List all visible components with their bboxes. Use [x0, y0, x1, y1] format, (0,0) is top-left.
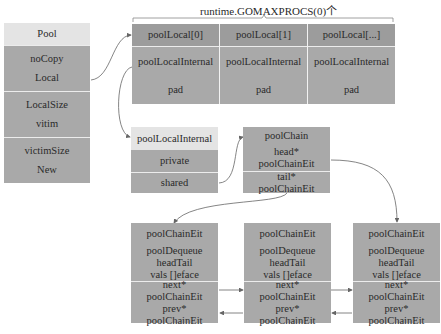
- field-shared-label: shared: [161, 177, 188, 189]
- poolchain-header: poolChain: [243, 127, 330, 145]
- prev-label: prev*: [385, 303, 409, 315]
- prev-label: prev*: [276, 303, 300, 315]
- next-type-label: poolChainEit: [369, 291, 425, 303]
- poolchaineit-header-label: poolChainEit: [147, 228, 203, 240]
- poollocal-pad-label: pad: [168, 84, 183, 96]
- arrow-head-to-last: [331, 160, 397, 222]
- poollocalinternal-header: poolLocalInternal: [131, 127, 218, 150]
- next-label: next*: [385, 279, 408, 291]
- gomaxprocs-label: runtime.GOMAXPROCS(0)个: [200, 2, 337, 18]
- poolchaineit-3: poolChainEit poolDequeue headTail vals […: [353, 223, 440, 323]
- pooldequeue-block: poolDequeue headTail vals []eface: [244, 245, 331, 281]
- poolchaineit-header: poolChainEit: [131, 223, 218, 245]
- poolchaineit-header-label: poolChainEit: [260, 228, 316, 240]
- poollocal-header: poolLocal[1]: [220, 24, 307, 46]
- arrow-tail-to-first: [174, 193, 287, 223]
- poolchain-struct: poolChain head* poolChainEit tail* poolC…: [243, 127, 330, 193]
- poolchain-tail: tail* poolChainEit: [243, 171, 330, 193]
- pooldequeue-label: poolDequeue: [147, 245, 203, 257]
- poollocal-pad-label: pad: [256, 84, 271, 96]
- link-block: next* poolChainEit prev* poolChainEit: [131, 281, 218, 323]
- head-type-label: poolChainEit: [259, 158, 315, 170]
- headtail-label: headTail: [157, 257, 193, 269]
- link-block: next* poolChainEit prev* poolChainEit: [244, 281, 331, 323]
- pool-field-group-2: LocalSize vitim: [4, 91, 90, 137]
- poollocal-header: poolLocal[0]: [132, 24, 219, 46]
- poollocalinternal-struct: poolLocalInternal private shared: [131, 127, 218, 193]
- prev-type-label: poolChainEit: [260, 315, 316, 327]
- poolchaineit-2: poolChainEit poolDequeue headTail vals […: [244, 223, 331, 323]
- pool-field-group-3: victimSize New: [4, 137, 90, 183]
- poollocal-header-label: poolLocal[...]: [323, 29, 380, 41]
- pooldequeue-block: poolDequeue headTail vals []eface: [131, 245, 218, 281]
- poollocal-pad: pad: [308, 76, 395, 104]
- pool-header: Pool: [4, 23, 90, 45]
- poollocal-internal: poolLocalInternal: [220, 46, 307, 76]
- poollocal-col-1: poolLocal[1] poolLocalInternal pad: [220, 24, 307, 104]
- poollocal-array: poolLocal[0] poolLocalInternal pad poolL…: [132, 24, 395, 104]
- arrow-local-to-poollocal: [91, 35, 131, 80]
- poollocal-internal: poolLocalInternal: [132, 46, 219, 76]
- poollocal-pad: pad: [220, 76, 307, 104]
- field-private-label: private: [160, 155, 189, 167]
- next-label: next*: [163, 279, 186, 291]
- poollocal-header-label: poolLocal[0]: [148, 29, 203, 41]
- poolchain-head: head* poolChainEit: [243, 145, 330, 171]
- prev-type-label: poolChainEit: [147, 315, 203, 327]
- poollocal-internal: poolLocalInternal: [308, 46, 395, 76]
- field-private: private: [131, 150, 218, 172]
- next-type-label: poolChainEit: [260, 291, 316, 303]
- arrow-internal-to-expanded: [119, 67, 132, 137]
- tail-label: tail*: [277, 171, 296, 183]
- poollocal-header: poolLocal[...]: [308, 24, 395, 46]
- poolchaineit-header: poolChainEit: [353, 223, 440, 245]
- tail-type-label: poolChainEit: [259, 183, 315, 195]
- poollocal-header-label: poolLocal[1]: [236, 29, 291, 41]
- poolchaineit-header-label: poolChainEit: [369, 228, 425, 240]
- poolchaineit-1: poolChainEit poolDequeue headTail vals […: [131, 223, 218, 323]
- poollocalinternal-header-label: poolLocalInternal: [137, 133, 212, 145]
- poollocal-col-0: poolLocal[0] poolLocalInternal pad: [132, 24, 219, 104]
- poollocal-internal-label: poolLocalInternal: [138, 56, 213, 68]
- pool-field-group-1: noCopy Local: [4, 45, 90, 91]
- poollocal-col-2: poolLocal[...] poolLocalInternal pad: [308, 24, 395, 104]
- field-localsize: LocalSize: [26, 99, 68, 111]
- pool-struct: Pool noCopy Local LocalSize vitim victim…: [4, 23, 90, 183]
- link-block: next* poolChainEit prev* poolChainEit: [353, 281, 440, 323]
- poollocal-internal-label: poolLocalInternal: [314, 56, 389, 68]
- next-type-label: poolChainEit: [147, 291, 203, 303]
- poollocal-pad: pad: [132, 76, 219, 104]
- pooldequeue-label: poolDequeue: [369, 245, 425, 257]
- headtail-label: headTail: [270, 257, 306, 269]
- pooldequeue-label: poolDequeue: [260, 245, 316, 257]
- field-shared: shared: [131, 172, 218, 193]
- pool-header-label: Pool: [37, 28, 56, 40]
- field-local: Local: [35, 72, 59, 84]
- next-label: next*: [276, 279, 299, 291]
- field-victimsize: victimSize: [25, 145, 70, 157]
- poolchaineit-header: poolChainEit: [244, 223, 331, 245]
- arrow-shared-to-poolchain: [219, 137, 243, 183]
- head-label: head*: [274, 146, 299, 158]
- prev-label: prev*: [163, 303, 187, 315]
- poolchain-header-label: poolChain: [265, 130, 309, 142]
- poollocal-internal-label: poolLocalInternal: [226, 56, 301, 68]
- field-vitim: vitim: [36, 118, 58, 130]
- poollocal-pad-label: pad: [344, 84, 359, 96]
- headtail-label: headTail: [379, 257, 415, 269]
- field-nocopy: noCopy: [30, 53, 63, 65]
- prev-type-label: poolChainEit: [369, 315, 425, 327]
- field-new: New: [37, 164, 57, 176]
- pooldequeue-block: poolDequeue headTail vals []eface: [353, 245, 440, 281]
